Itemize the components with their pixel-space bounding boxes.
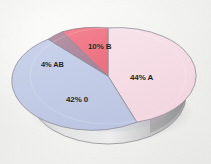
slice-label-a: 44% A <box>130 73 153 82</box>
pie-chart-figure: 44% A 42% 0 4% AB 10% B <box>0 0 211 164</box>
slice-label-ab: 4% AB <box>41 60 64 69</box>
pie-chart-canvas <box>0 0 211 164</box>
slice-label-o: 42% 0 <box>66 95 88 104</box>
slice-label-b: 10% B <box>88 42 112 51</box>
